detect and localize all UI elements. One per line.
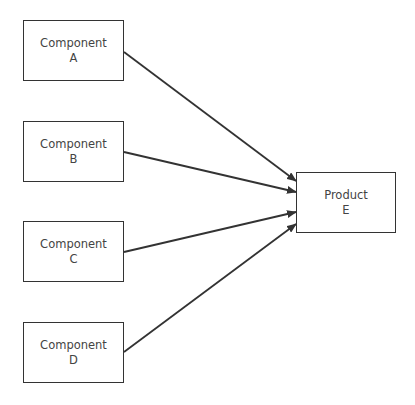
component-b-label: Component [40,137,107,152]
arrow-a-to-e [124,52,296,181]
product-e-id: E [342,203,349,218]
arrow-b-to-e [124,152,296,192]
arrow-d-to-e [124,224,296,352]
component-a-id: A [70,51,78,66]
component-c-box: Component C [23,221,124,282]
arrow-c-to-e [124,212,296,252]
component-d-label: Component [40,338,107,353]
component-b-id: B [70,152,78,167]
product-e-label: Product [324,188,368,203]
component-c-id: C [69,252,77,267]
component-a-label: Component [40,36,107,51]
product-e-box: Product E [296,172,396,233]
component-d-box: Component D [23,322,124,383]
component-d-id: D [69,353,78,368]
component-a-box: Component A [23,20,124,81]
component-c-label: Component [40,237,107,252]
component-b-box: Component B [23,121,124,182]
